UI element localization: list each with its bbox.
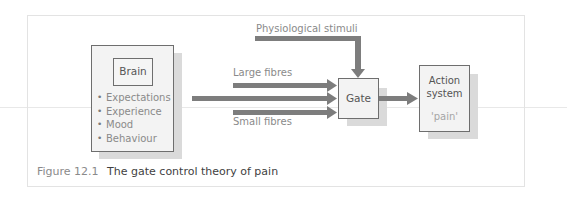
- small-fibres-arrow: [233, 110, 329, 115]
- arrow-right-icon: [327, 79, 338, 92]
- action-system-line2: system: [419, 87, 470, 100]
- figure-number: Figure 12.1: [37, 165, 99, 178]
- gate-label: Gate: [338, 92, 379, 104]
- physiological-stimuli-label: Physiological stimuli: [256, 23, 358, 34]
- arrow-right-icon: [407, 92, 419, 105]
- large-fibres-label: Large fibres: [233, 67, 292, 78]
- brain-to-gate-arrow: [192, 96, 329, 101]
- action-system-line1: Action: [419, 74, 470, 87]
- physiological-stimuli-drop: [355, 36, 361, 71]
- brain-label: Brain: [113, 65, 153, 77]
- factor-expectations: Expectations: [97, 91, 171, 105]
- factor-behaviour: Behaviour: [97, 132, 171, 146]
- pain-output-label: 'pain': [419, 111, 470, 122]
- brain-factors-list: Expectations Experience Mood Behaviour: [97, 91, 171, 145]
- arrow-right-icon: [327, 106, 338, 119]
- figure-title: The gate control theory of pain: [107, 165, 278, 178]
- factor-experience: Experience: [97, 105, 171, 119]
- physiological-stimuli-bar: [255, 36, 361, 41]
- large-fibres-arrow: [233, 83, 329, 88]
- gate-to-action-arrow: [379, 96, 409, 101]
- small-fibres-label: Small fibres: [233, 116, 292, 127]
- factor-mood: Mood: [97, 118, 171, 132]
- arrow-right-icon: [327, 92, 338, 105]
- figure-caption: Figure 12.1 The gate control theory of p…: [37, 165, 278, 178]
